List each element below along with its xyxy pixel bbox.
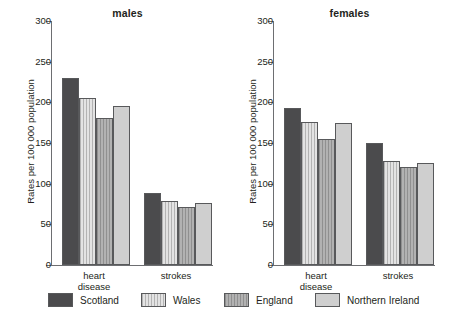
x-axis-line-males bbox=[51, 265, 213, 266]
legend-item-wales: Wales bbox=[141, 290, 200, 310]
bar-females-strokes-wales bbox=[383, 161, 400, 265]
y-tick-label-100-males: 100 bbox=[11, 179, 51, 189]
y-tick-label-50-males: 50 bbox=[11, 220, 51, 230]
y-tick-label-300-males: 300 bbox=[11, 16, 51, 26]
bar-males-strokes-england bbox=[178, 207, 195, 265]
x-group-label-strokes-females: strokes bbox=[358, 270, 438, 281]
chart-panel-males: males Rates per 100 000 population 0 50 … bbox=[0, 0, 222, 286]
legend-item-northern-ireland: Northern Ireland bbox=[315, 290, 419, 310]
y-tick-label-50-females: 50 bbox=[233, 220, 273, 230]
y-tick-label-250-females: 250 bbox=[233, 57, 273, 67]
legend-label-scotland: Scotland bbox=[80, 295, 119, 306]
legend-item-scotland: Scotland bbox=[48, 290, 119, 310]
legend-swatch-wales bbox=[141, 293, 166, 307]
legend-label-northern-ireland: Northern Ireland bbox=[347, 295, 419, 306]
bar-females-strokes-scotland bbox=[366, 143, 383, 265]
legend-swatch-scotland bbox=[48, 293, 73, 307]
legend-label-england: England bbox=[256, 295, 293, 306]
bar-males-heart-wales bbox=[79, 98, 96, 265]
bar-females-heart-northern-ireland bbox=[335, 123, 352, 265]
legend-item-england: England bbox=[224, 290, 293, 310]
x-group-label-heart-disease-males: heart disease bbox=[54, 270, 134, 292]
bar-females-heart-scotland bbox=[284, 108, 301, 265]
plot-area-females bbox=[274, 21, 434, 265]
y-tick-label-150-males: 150 bbox=[11, 138, 51, 148]
plot-area-males bbox=[52, 21, 212, 265]
bar-females-heart-england bbox=[318, 139, 335, 265]
legend-label-wales: Wales bbox=[173, 295, 200, 306]
y-tick-label-200-females: 200 bbox=[233, 98, 273, 108]
legend-swatch-northern-ireland bbox=[315, 293, 340, 307]
x-group-label-line1: heart bbox=[276, 270, 356, 281]
x-group-label-line1: heart bbox=[54, 270, 134, 281]
bar-males-heart-scotland bbox=[62, 78, 79, 265]
y-tick-label-150-females: 150 bbox=[233, 138, 273, 148]
x-group-label-heart-disease-females: heart disease bbox=[276, 270, 356, 292]
grouped-bar-chart-figure: males Rates per 100 000 population 0 50 … bbox=[0, 0, 451, 322]
chart-panel-females: females Rates per 100 000 population 0 5… bbox=[222, 0, 444, 286]
x-group-label-strokes-males: strokes bbox=[136, 270, 216, 281]
y-tick-label-0-females: 0 bbox=[233, 260, 273, 270]
panel-title-males: males bbox=[40, 7, 215, 19]
bar-males-strokes-scotland bbox=[144, 193, 161, 265]
bar-males-heart-northern-ireland bbox=[113, 106, 130, 265]
bar-females-heart-wales bbox=[301, 122, 318, 265]
bar-males-heart-england bbox=[96, 118, 113, 265]
x-group-label-line1: strokes bbox=[136, 270, 216, 281]
chart-panels: males Rates per 100 000 population 0 50 … bbox=[0, 0, 451, 286]
x-axis-line-females bbox=[273, 265, 435, 266]
y-tick-label-300-females: 300 bbox=[233, 16, 273, 26]
bar-females-strokes-england bbox=[400, 167, 417, 265]
y-tick-label-100-females: 100 bbox=[233, 179, 273, 189]
bar-females-strokes-northern-ireland bbox=[417, 163, 434, 265]
legend-swatch-england bbox=[224, 293, 249, 307]
bar-males-strokes-wales bbox=[161, 201, 178, 265]
x-group-label-line1: strokes bbox=[358, 270, 438, 281]
y-tick-label-250-males: 250 bbox=[11, 57, 51, 67]
y-tick-label-0-males: 0 bbox=[11, 260, 51, 270]
y-tick-label-200-males: 200 bbox=[11, 98, 51, 108]
bar-males-strokes-northern-ireland bbox=[195, 203, 212, 265]
chart-legend: Scotland Wales England Northern Ireland bbox=[0, 290, 451, 314]
panel-title-females: females bbox=[262, 7, 437, 19]
